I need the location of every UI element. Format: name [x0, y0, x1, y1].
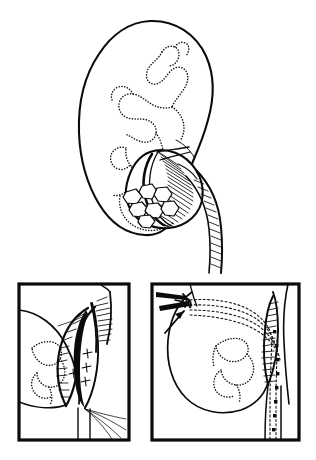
suture-knot: [275, 386, 278, 389]
illustration-canvas: [0, 0, 316, 460]
panel-a: [19, 284, 129, 440]
suture-knot: [272, 428, 275, 431]
panel-b: [152, 284, 299, 440]
medical-illustration-figure: [0, 0, 316, 460]
suture-knot: [273, 330, 276, 333]
